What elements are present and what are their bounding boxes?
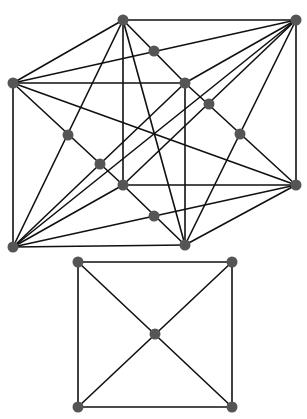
cube-node-M4 [63,130,74,141]
square-node-P4 [227,402,238,413]
cube-node-D [180,78,191,89]
cube-node-M1 [149,46,160,57]
cube-node-B [291,15,302,26]
cube-edge-A-C [13,20,123,83]
square-node-P2 [227,257,238,268]
cube-edge-G-H [13,245,185,247]
diagram-canvas [0,0,307,419]
cube-node-M2 [204,99,215,110]
cube-node-A [118,15,129,26]
square-node-PC [150,329,161,340]
cube-node-G [8,242,19,253]
cube-node-H [180,240,191,251]
cube-node-M3 [235,129,246,140]
cube-node-C [8,78,19,89]
cube-node-F [291,180,302,191]
cube-edge-F-H [185,185,296,245]
graph-diagram [0,0,307,419]
cube-node-M5 [95,159,106,170]
square-node-P3 [73,402,84,413]
square-node-P1 [73,257,84,268]
cube-node-E [118,180,129,191]
cube-node-M6 [149,211,160,222]
